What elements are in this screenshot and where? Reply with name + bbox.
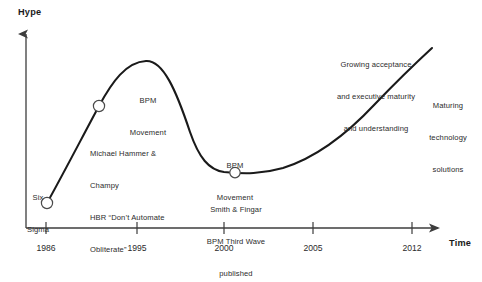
annotation-maturing-technology-line-1: Maturing (415, 101, 481, 112)
annotation-growing-acceptance-line-1: Growing acceptance (317, 60, 435, 71)
marker-hammer-champy (93, 100, 104, 111)
annotation-maturing-technology-line-3: solutions (415, 165, 481, 176)
annotation-hammer-champy-line-2: Champy (90, 181, 200, 192)
annotation-maturing-technology: Maturing technology solutions (415, 80, 481, 197)
annotation-six-sigma-line-2: Sigma (14, 225, 62, 236)
annotation-hammer-champy-line-4: Obliterate” (90, 245, 200, 256)
annotation-hammer-champy-line-3: HBR “Don’t Automate (90, 213, 200, 224)
annotation-bpm-movement-peak: BPM Movement (118, 75, 178, 160)
annotation-bpm-movement-trough-line-1: BPM (205, 161, 265, 172)
annotation-smith-fingar: Smith & Fingar BPM Third Wave published (188, 184, 284, 282)
x-axis-title: Time (449, 238, 471, 248)
annotation-maturing-technology-line-2: technology (415, 133, 481, 144)
x-tick-label-2012: 2012 (402, 243, 421, 253)
x-tick-label-2005: 2005 (303, 243, 322, 253)
annotation-smith-fingar-line-1: Smith & Fingar (188, 205, 284, 216)
y-axis-title: Hype (18, 7, 41, 17)
annotation-bpm-movement-peak-line-2: Movement (118, 128, 178, 139)
annotation-bpm-movement-peak-line-1: BPM (118, 96, 178, 107)
annotation-smith-fingar-line-3: published (188, 269, 284, 280)
annotation-six-sigma: Six Sigma (14, 172, 62, 257)
annotation-smith-fingar-line-2: BPM Third Wave (188, 237, 284, 248)
annotation-six-sigma-line-1: Six (14, 193, 62, 204)
